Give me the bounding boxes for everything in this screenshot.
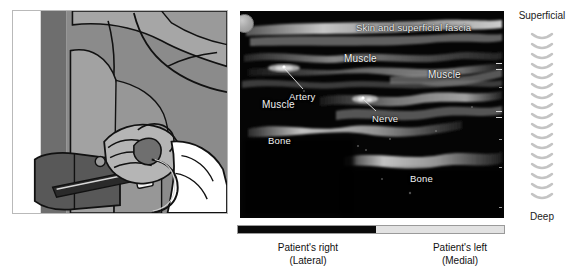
depth-axis: Superficial D <box>508 10 576 222</box>
caption-patient-right: Patient's right (Lateral) <box>233 241 383 267</box>
caption-patient-right-primary: Patient's right <box>278 242 338 253</box>
caption-patient-right-secondary: (Lateral) <box>233 254 383 267</box>
depth-chevron-stack <box>508 30 576 202</box>
caption-patient-left-secondary: (Medial) <box>385 254 535 267</box>
chevron-stack-icon <box>508 30 576 202</box>
ultrasound-image: Skin and superficial fascia Artery Muscl… <box>240 11 504 218</box>
orientation-bar-left-segment <box>238 226 376 233</box>
superficial-label: Superficial <box>508 10 576 21</box>
deep-label: Deep <box>508 211 576 222</box>
label-leader-lines <box>240 11 504 218</box>
orientation-bar <box>237 225 505 234</box>
caption-patient-left: Patient's left (Medial) <box>385 241 535 267</box>
illustration-artwork <box>13 11 227 213</box>
orientation-bar-right-segment <box>376 226 504 233</box>
caption-patient-left-primary: Patient's left <box>433 242 487 253</box>
probe-placement-illustration <box>12 10 228 214</box>
